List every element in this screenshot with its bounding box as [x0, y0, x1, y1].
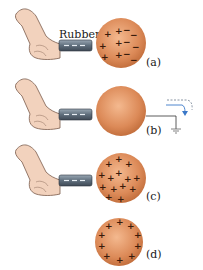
svg-text:−: − — [123, 37, 131, 47]
rubber-label: Rubber — [59, 28, 101, 41]
svg-text:−: − — [130, 30, 138, 40]
svg-text:+: + — [98, 170, 106, 180]
hand-icon — [15, 9, 60, 60]
svg-text:+: + — [115, 26, 123, 36]
svg-text:+: + — [115, 38, 123, 48]
svg-text:+: + — [98, 230, 106, 240]
svg-text:+: + — [128, 251, 136, 261]
sphere-b — [96, 86, 146, 136]
svg-text:+: + — [115, 154, 123, 164]
panel-a: Rubber + + + + + + − − − − − − (a) — [15, 9, 161, 69]
svg-text:+: + — [125, 159, 133, 169]
svg-text:+: + — [115, 50, 123, 60]
arrow-head-icon — [182, 111, 188, 116]
svg-text:+: + — [99, 182, 107, 192]
label-d: (d) — [146, 248, 162, 261]
svg-text:−: − — [130, 55, 138, 65]
rubber-rod — [59, 109, 92, 120]
hand-icon — [15, 79, 60, 130]
svg-text:+: + — [107, 173, 115, 183]
electron-flow-arrow — [166, 105, 185, 112]
svg-text:+: + — [133, 173, 141, 183]
panel-c: + + + + + + + + + + + + + + (c) — [15, 145, 160, 204]
svg-text:+: + — [98, 241, 106, 251]
rubber-rod — [59, 40, 92, 51]
svg-text:+: + — [105, 221, 113, 231]
panel-d: + + + + + + + + + + (d) — [95, 217, 162, 266]
svg-text:−: − — [132, 42, 140, 52]
svg-text:+: + — [115, 168, 123, 178]
svg-text:+: + — [104, 29, 112, 39]
svg-text:+: + — [119, 181, 127, 191]
svg-text:+: + — [116, 217, 124, 227]
svg-text:+: + — [116, 255, 124, 265]
label-b: (b) — [146, 124, 162, 137]
rubber-rod — [59, 175, 92, 186]
svg-text:+: + — [105, 159, 113, 169]
charges-a: + + + + + + − − − − − − — [99, 25, 140, 65]
svg-text:+: + — [105, 192, 113, 202]
svg-text:+: + — [103, 251, 111, 261]
svg-text:+: + — [101, 52, 109, 62]
svg-text:+: + — [134, 241, 142, 251]
panel-b: (b) — [15, 79, 192, 137]
svg-text:+: + — [117, 194, 125, 204]
label-c: (c) — [146, 190, 161, 203]
svg-text:+: + — [134, 230, 142, 240]
ground-icon — [171, 129, 181, 133]
hand-icon — [15, 145, 60, 196]
svg-text:+: + — [99, 41, 107, 51]
charging-by-induction-figure: Rubber + + + + + + − − − − − − (a) — [0, 0, 203, 270]
svg-text:+: + — [129, 184, 137, 194]
label-a: (a) — [146, 56, 161, 69]
